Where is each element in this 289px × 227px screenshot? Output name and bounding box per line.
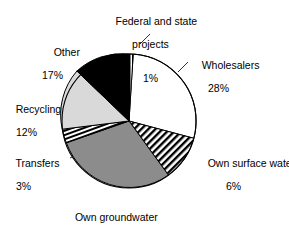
slice-value-wholesalers: 28% <box>190 83 285 95</box>
slice-value-own-surface-water: 6% <box>196 181 289 193</box>
slice-label-other: Other 17% <box>42 35 102 104</box>
slice-label-wholesalers-text: Wholesalers <box>202 59 260 71</box>
slice-label-recycling-text: Recycling <box>16 103 62 115</box>
slice-value-recycling: 12% <box>4 127 74 139</box>
slice-label-federal-and-state-projects-line1: Federal and state <box>115 15 197 27</box>
slice-label-other-text: Other <box>54 46 80 58</box>
slice-value-other: 17% <box>42 70 102 82</box>
slice-label-own-groundwater-text: Own groundwater <box>75 211 158 223</box>
slice-label-own-surface-water: Own surface water 6% <box>196 146 289 215</box>
slice-label-own-surface-water-text: Own surface water <box>208 157 289 169</box>
slice-value-transfers: 3% <box>4 181 74 193</box>
pie-chart: Federal and state projects 1% Wholesaler… <box>0 0 289 227</box>
slice-label-wholesalers: Wholesalers 28% <box>190 48 285 117</box>
